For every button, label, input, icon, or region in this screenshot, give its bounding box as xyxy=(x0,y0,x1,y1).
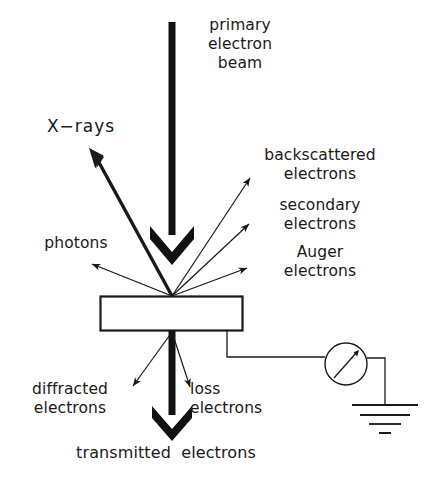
transmitted-electrons-arrow xyxy=(152,331,192,441)
backscattered-electrons-arrow xyxy=(172,178,250,296)
specimen-slab xyxy=(101,297,243,331)
diffracted-electrons-arrow xyxy=(133,332,172,386)
label-secondary-electrons: secondary electrons xyxy=(240,196,400,234)
xrays-arrow xyxy=(89,148,172,296)
label-transmitted-electrons: transmitted electrons xyxy=(34,443,298,462)
label-auger-electrons: Auger electrons xyxy=(240,243,400,281)
label-primary-electron-beam: primary electron beam xyxy=(182,16,298,73)
ground-symbol xyxy=(352,405,418,433)
diagram-canvas: primary electron beam X−rays backscatter… xyxy=(0,0,442,488)
label-loss-electrons: loss electrons xyxy=(190,380,296,418)
secondary-electrons-arrow xyxy=(172,224,249,296)
specimen-current-wire xyxy=(227,331,325,357)
label-xrays: X−rays xyxy=(22,117,140,136)
label-diffracted-electrons: diffracted electrons xyxy=(8,380,132,418)
current-meter xyxy=(325,343,367,385)
photons-arrow xyxy=(92,264,172,296)
label-backscattered-electrons: backscattered electrons xyxy=(240,146,400,184)
meter-ground-wire xyxy=(367,358,385,405)
label-photons: photons xyxy=(22,234,130,253)
auger-electrons-arrow xyxy=(172,268,247,296)
